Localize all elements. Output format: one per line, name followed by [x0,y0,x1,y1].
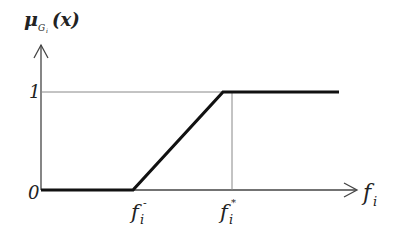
svg-text:-: - [143,197,147,210]
svg-text:i: i [373,194,377,209]
tick-label-f-minus: f i - [129,197,147,227]
tick-label-f-star: f i * [218,197,236,227]
y-axis-label-subsub: i [46,27,48,34]
y-axis-label-sub: G [38,23,45,33]
tick-label-one: 1 [29,81,40,102]
membership-function-diagram: μ G i (x) 1 0 f i - f i * f i [0,0,396,231]
y-axis [34,45,48,190]
membership-curve [41,92,339,190]
tick-label-origin: 0 [28,182,39,203]
svg-text:i: i [229,212,233,227]
svg-text:i: i [140,212,144,227]
y-axis-label-arg: (x) [52,9,80,30]
y-axis-label-mu: μ [24,8,38,30]
x-axis-label: f i [361,180,377,209]
svg-text:*: * [231,197,236,208]
